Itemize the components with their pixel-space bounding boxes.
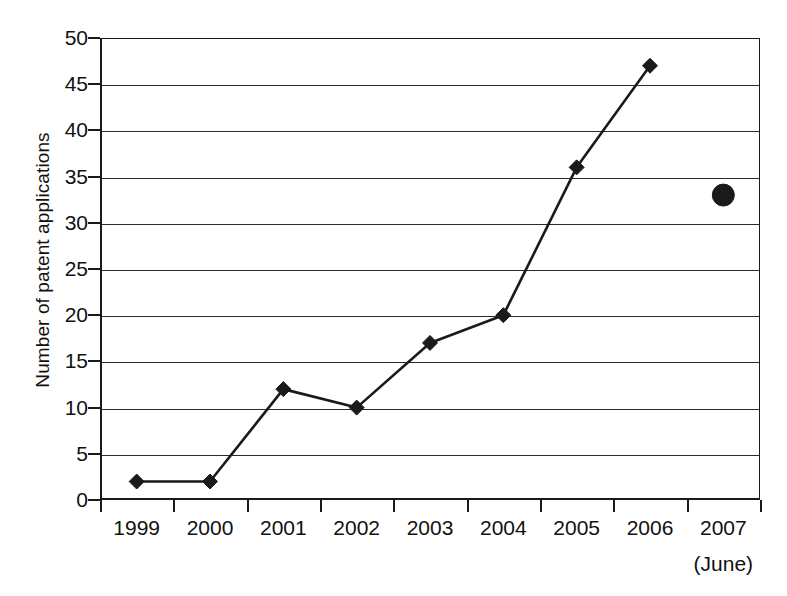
y-axis-tick-mark [88,222,100,224]
x-axis-tick-label: 2007 [700,516,747,540]
y-axis-tick-label: 10 [65,396,88,420]
x-axis-tick-mark [540,500,542,512]
y-axis-tick-mark [88,360,100,362]
x-axis-tick-mark [687,500,689,512]
series-layer [100,38,760,500]
x-axis-tick-mark [173,500,175,512]
x-axis-tick-label: 2002 [333,516,380,540]
data-point-diamond [129,474,144,489]
series-line [137,66,650,482]
y-axis-tick-mark [88,314,100,316]
y-axis-tick-mark [88,268,100,270]
x-axis-tick-label: 2001 [260,516,307,540]
x-axis-tick-label: 2004 [480,516,527,540]
y-axis-tick-label: 50 [65,26,88,50]
chart-figure: Number of patent applications 0510152025… [0,0,787,596]
y-axis-tick-mark [88,129,100,131]
x-axis-tick-mark [393,500,395,512]
y-axis-tick-mark [88,453,100,455]
y-axis-tick-label: 45 [65,72,88,96]
y-axis-tick-label: 0 [76,488,88,512]
data-point-diamond [496,308,511,323]
x-axis-tick-mark [320,500,322,512]
x-axis-tick-label: 2005 [553,516,600,540]
y-axis-tick-label: 30 [65,211,88,235]
x-axis-tick-mark [247,500,249,512]
y-axis-tick-label: 25 [65,257,88,281]
y-axis-tick-mark [88,407,100,409]
y-axis-tick-label: 5 [76,442,88,466]
y-axis-tick-label: 15 [65,349,88,373]
x-axis-tick-mark [100,500,102,512]
y-axis-tick-label: 35 [65,165,88,189]
y-axis-tick-mark [88,83,100,85]
x-axis-sublabel: (June) [694,552,754,576]
x-axis-tick-mark [467,500,469,512]
data-point-circle [712,184,734,206]
x-axis-tick-label: 2003 [407,516,454,540]
y-axis-tick-label: 40 [65,118,88,142]
x-axis-tick-mark [760,500,762,512]
y-axis-tick-labels: 05101520253035404550 [36,38,88,500]
y-axis-tick-mark [88,499,100,501]
y-axis-tick-mark [88,37,100,39]
x-axis-tick-label: 2006 [627,516,674,540]
y-axis-tick-mark [88,176,100,178]
x-axis-tick-mark [613,500,615,512]
y-axis-tick-label: 20 [65,303,88,327]
x-axis-tick-label: 2000 [187,516,234,540]
x-axis-tick-label: 1999 [113,516,160,540]
